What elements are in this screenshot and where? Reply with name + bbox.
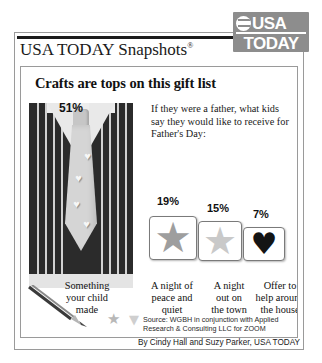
category-label-line: peace and — [143, 292, 201, 304]
confetti-triangle-icon: ▼ — [129, 312, 139, 327]
necktie-photo: ♥ ♥ ♥ ♥ — [29, 103, 133, 288]
category-label-line: A night — [203, 280, 255, 292]
heart-icon: ♥ — [81, 219, 92, 229]
usa-today-snapshot-infographic: USA TODAY USA TODAY Snapshots® Crafts ar… — [0, 0, 322, 363]
heart-icon: ♥ — [251, 229, 278, 259]
category-label-line: out on — [203, 292, 255, 304]
category-label-line: your child — [47, 292, 127, 304]
page-title: Crafts are tops on this gift list — [35, 75, 216, 92]
confetti-star-icon: ★ — [107, 310, 120, 328]
category-label-line: Something — [47, 280, 127, 292]
category-card-4: ♥ — [243, 227, 285, 261]
heart-icon: ♥ — [82, 151, 93, 161]
category-label-line: Offer to — [249, 280, 298, 292]
globe-icon — [236, 16, 251, 31]
collar-right — [89, 103, 115, 149]
category-label-2: A night of peace and quiet — [143, 280, 201, 316]
value-label-4: 7% — [253, 208, 269, 220]
category-label-4: Offer to help around the house — [249, 280, 298, 316]
source-note: Source: WGBH in conjunction with Applied… — [143, 315, 293, 333]
logo-usa-text: USA — [252, 15, 286, 32]
heart-icon: ♥ — [73, 173, 84, 183]
chart-panel: Crafts are tops on this gift list If the… — [20, 66, 298, 338]
star-icon: ★ — [203, 222, 237, 260]
heart-icon: ♥ — [71, 199, 82, 209]
usa-today-logo: USA TODAY — [233, 12, 309, 52]
registered-mark: ® — [187, 41, 193, 50]
byline: By Cindy Hall and Suzy Parker, USA TODAY — [14, 338, 304, 347]
category-label-3: A night out on the town — [203, 280, 255, 316]
category-label-line: help around — [249, 292, 298, 304]
question-text: If they were a father, what kids say the… — [151, 103, 293, 141]
category-label-line: A night of — [143, 280, 201, 292]
value-label-1: 51% — [59, 101, 83, 115]
header-rule — [17, 36, 239, 39]
value-label-3: 15% — [207, 202, 229, 214]
value-label-2: 19% — [157, 195, 179, 207]
series-title: USA TODAY Snapshots® — [20, 40, 193, 60]
logo-top-row: USA — [236, 15, 306, 32]
category-card-2: ★ — [149, 216, 197, 260]
logo-today-text: TODAY — [236, 32, 306, 52]
series-title-text: USA TODAY Snapshots — [20, 40, 187, 59]
category-card-3: ★ — [198, 221, 242, 261]
star-icon: ★ — [154, 217, 192, 259]
